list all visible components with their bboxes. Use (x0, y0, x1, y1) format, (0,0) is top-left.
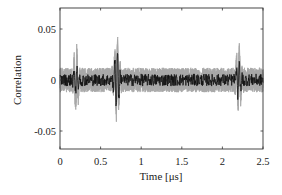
correlation-chart: 00.511.522.5 0.050-0.05 Time [μs] Correl… (0, 0, 282, 195)
x-tick-label: 2.5 (256, 156, 269, 167)
x-tick-label: 0.5 (94, 156, 107, 167)
plot-area (60, 37, 263, 122)
x-tick-label: 2 (220, 156, 225, 167)
y-tick-label: 0 (51, 75, 56, 86)
y-tick-label: 0.05 (38, 24, 56, 35)
x-tick-label: 1.5 (175, 156, 188, 167)
y-axis-label: Correlation (11, 54, 23, 105)
y-tick-label: -0.05 (34, 126, 56, 137)
x-tick-label: 0 (57, 156, 62, 167)
x-axis-label: Time [μs] (139, 170, 182, 182)
x-tick-label: 1 (139, 156, 144, 167)
